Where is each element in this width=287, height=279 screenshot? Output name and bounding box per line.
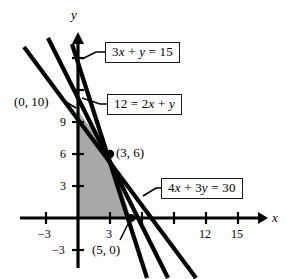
callout-4x-3y-30-text: 4x + 3y = 30 xyxy=(168,180,236,195)
callout-4x-3y-30: 4x + 3y = 30 xyxy=(161,178,243,199)
x-tick-label--3: −3 xyxy=(38,228,51,240)
y-axis-arrowhead xyxy=(72,32,84,44)
x-tick-label-15: 15 xyxy=(231,228,243,240)
y-tick-label-3: 3 xyxy=(60,180,66,192)
x-axis-arrowhead xyxy=(258,212,268,224)
y-tick-label-9: 9 xyxy=(60,116,66,128)
x-axis-name: x xyxy=(272,211,278,224)
graph-figure: x y −3 3 12 15 −3 3 6 9 (0, 10) (3, 6) (… xyxy=(0,0,287,279)
y-axis-name: y xyxy=(71,8,77,21)
callout-3x-y-15: 3x + y = 15 xyxy=(105,42,180,63)
vertex-point-5-0 xyxy=(127,214,135,222)
callout-3x-y-15-text: 3x + y = 15 xyxy=(112,44,173,59)
x-tick-label-3: 3 xyxy=(106,228,112,240)
callout-12-2x-y-text: 12 = 2x + y xyxy=(114,96,175,111)
point-label-0-10: (0, 10) xyxy=(14,95,49,108)
callout-12-2x-y: 12 = 2x + y xyxy=(107,94,182,115)
y-tick-label-6: 6 xyxy=(60,148,66,160)
y-tick-label--3: −3 xyxy=(52,244,65,256)
x-tick-label-12: 12 xyxy=(199,228,211,240)
leader-line-5-0 xyxy=(120,224,128,240)
intersection-point-3-6 xyxy=(106,150,114,158)
point-label-3-6: (3, 6) xyxy=(116,146,144,159)
point-label-5-0: (5, 0) xyxy=(92,243,120,256)
